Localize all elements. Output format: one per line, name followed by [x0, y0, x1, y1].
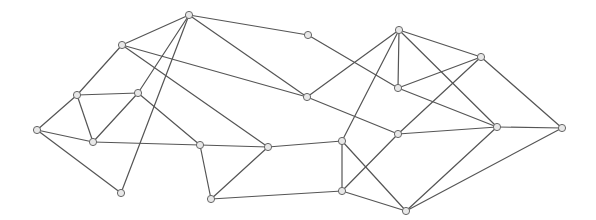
node-n1: [185, 11, 192, 18]
node-n6: [89, 138, 96, 145]
node-n5: [33, 126, 40, 133]
node-n3: [73, 91, 80, 98]
node-n10: [207, 195, 214, 202]
node-n12: [303, 93, 310, 100]
node-n17: [493, 123, 500, 130]
node-n13: [395, 26, 402, 33]
node-n8: [196, 141, 203, 148]
node-n9: [264, 143, 271, 150]
network-graph: [0, 0, 596, 220]
node-n16: [394, 130, 401, 137]
node-n18: [558, 124, 565, 131]
node-n7: [117, 189, 124, 196]
node-n2: [118, 41, 125, 48]
node-n4: [134, 89, 141, 96]
node-n14: [394, 84, 401, 91]
node-n19: [338, 137, 345, 144]
node-n21: [402, 207, 409, 214]
node-n15: [477, 53, 484, 60]
node-n11: [304, 31, 311, 38]
node-n20: [338, 187, 345, 194]
